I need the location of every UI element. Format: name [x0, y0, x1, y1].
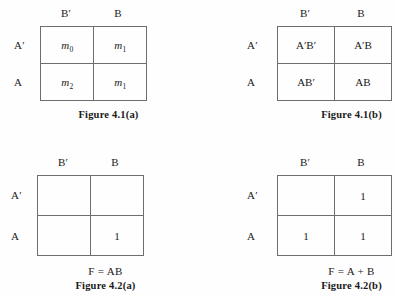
kmap-cell-a-not-b-not[interactable] — [38, 176, 91, 216]
kmap-block-figure-4-2-a: B′ B A′ A — [7, 157, 144, 291]
table-row: 1 1 — [278, 216, 392, 256]
cell-value: A′B — [354, 40, 372, 51]
figure-caption: Figure 4.1(a) — [78, 109, 138, 120]
figure-caption: Figure 4.2(a) — [75, 280, 135, 291]
table-row: 1 — [38, 216, 144, 256]
table-row: A′B′ A′B — [278, 27, 392, 64]
kmap-block-figure-4-2-b: B′ B A′ A 1 — [243, 157, 392, 291]
caption-area: F = AB Figure 4.2(a) — [37, 256, 174, 291]
caption-area: Figure 4.1(b) — [277, 101, 396, 120]
column-header-b: B — [89, 157, 141, 175]
cell-value: m1 — [114, 77, 126, 88]
kmap-figure-grid: B′ B A′ A m0 m1 — [0, 0, 396, 298]
row-header-column: A′ A — [10, 26, 40, 101]
table-row: m0 m1 — [41, 27, 147, 64]
kmap-cell-a-b[interactable]: AB — [335, 64, 392, 101]
column-header-row: B′ B — [37, 157, 141, 175]
kmap-table-figure-4-2-a: 1 — [37, 175, 144, 256]
cell-value: A′B′ — [296, 40, 316, 51]
column-header-b-not: B′ — [277, 8, 333, 26]
cell-value: m0 — [61, 40, 73, 51]
column-header-b-not: B′ — [277, 157, 333, 175]
row-header-a: A — [10, 64, 40, 102]
row-header-a: A — [243, 216, 277, 257]
row-header-a-not: A′ — [243, 26, 277, 64]
figure-caption: Figure 4.1(b) — [321, 109, 382, 120]
cell-value: AB′ — [297, 77, 315, 88]
kmap-table-figure-4-2-b: 1 1 1 — [277, 175, 392, 256]
kmap-panel-figure-4-1-b: B′ B A′ A A′B′ A′B — [198, 0, 396, 149]
column-header-row: B′ B — [40, 8, 144, 26]
function-expression: F = AB — [88, 265, 122, 277]
kmap-cell-a-b[interactable]: 1 — [91, 216, 144, 256]
column-header-row: B′ B — [277, 8, 389, 26]
cell-value: m1 — [114, 40, 126, 51]
kmap-cell-a-not-b-not[interactable]: m0 — [41, 27, 94, 64]
function-expression: F = A + B — [328, 265, 374, 277]
column-header-b-not: B′ — [37, 157, 89, 175]
kmap-body: A′ A m0 m1 — [10, 26, 147, 101]
kmap-cell-a-not-b-not[interactable] — [278, 176, 335, 216]
row-header-a: A — [7, 216, 37, 257]
kmap-body: A′ A A′B′ A′B — [243, 26, 392, 101]
column-header-b: B — [333, 8, 389, 26]
kmap-cell-a-b-not[interactable] — [38, 216, 91, 256]
cell-value: m2 — [61, 77, 73, 88]
kmap-body: A′ A — [7, 175, 144, 256]
kmap-cell-a-not-b-not[interactable]: A′B′ — [278, 27, 335, 64]
cell-value: 1 — [360, 231, 366, 242]
kmap-table-figure-4-1-a: m0 m1 m2 m1 — [40, 26, 147, 101]
kmap-cell-a-not-b[interactable]: m1 — [94, 27, 147, 64]
table-row — [38, 176, 144, 216]
column-header-b: B — [333, 157, 389, 175]
row-header-column: A′ A — [243, 26, 277, 101]
kmap-cell-a-b-not[interactable]: 1 — [278, 216, 335, 256]
caption-area: F = A + B Figure 4.2(b) — [277, 256, 396, 291]
column-header-b-not: B′ — [40, 8, 92, 26]
cell-value: 1 — [114, 231, 120, 242]
row-header-column: A′ A — [243, 175, 277, 256]
cell-value: AB — [355, 77, 370, 88]
column-header-row: B′ B — [277, 157, 389, 175]
table-row: 1 — [278, 176, 392, 216]
column-header-b: B — [92, 8, 144, 26]
row-header-a: A — [243, 64, 277, 102]
table-row: m2 m1 — [41, 64, 147, 101]
figure-caption: Figure 4.2(b) — [321, 280, 382, 291]
kmap-block-figure-4-1-a: B′ B A′ A m0 m1 — [10, 8, 147, 120]
kmap-cell-a-not-b[interactable]: A′B — [335, 27, 392, 64]
kmap-table-figure-4-1-b: A′B′ A′B AB′ AB — [277, 26, 392, 101]
cell-value: 1 — [360, 191, 366, 202]
kmap-cell-a-b[interactable]: 1 — [335, 216, 392, 256]
cell-value: 1 — [303, 231, 309, 242]
kmap-cell-a-not-b[interactable] — [91, 176, 144, 216]
kmap-panel-figure-4-1-a: B′ B A′ A m0 m1 — [0, 0, 198, 149]
table-row: AB′ AB — [278, 64, 392, 101]
kmap-body: A′ A 1 — [243, 175, 392, 256]
kmap-cell-a-not-b[interactable]: 1 — [335, 176, 392, 216]
kmap-panel-figure-4-2-a: B′ B A′ A — [0, 149, 198, 298]
row-header-a-not: A′ — [7, 175, 37, 216]
row-header-column: A′ A — [7, 175, 37, 256]
kmap-cell-a-b[interactable]: m1 — [94, 64, 147, 101]
caption-area: Figure 4.1(a) — [40, 101, 177, 120]
kmap-cell-a-b-not[interactable]: m2 — [41, 64, 94, 101]
kmap-cell-a-b-not[interactable]: AB′ — [278, 64, 335, 101]
kmap-panel-figure-4-2-b: B′ B A′ A 1 — [198, 149, 396, 298]
row-header-a-not: A′ — [10, 26, 40, 64]
kmap-block-figure-4-1-b: B′ B A′ A A′B′ A′B — [243, 8, 392, 120]
row-header-a-not: A′ — [243, 175, 277, 216]
